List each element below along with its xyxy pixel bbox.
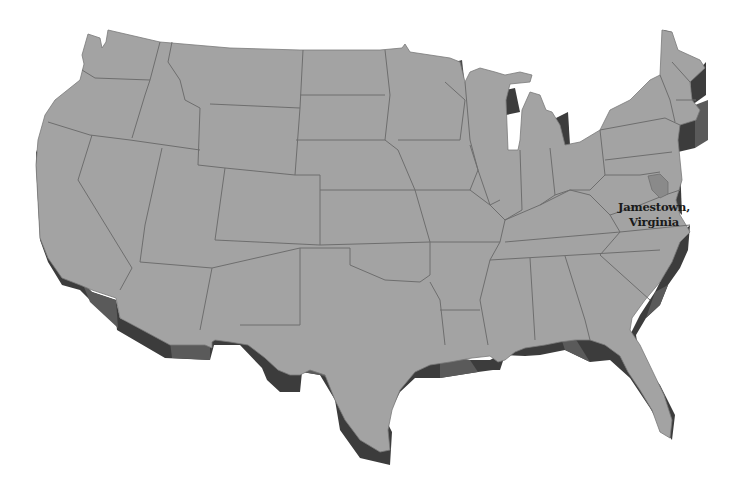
us-map — [0, 0, 744, 501]
jamestown-virginia-label: Jamestown, Virginia — [612, 200, 696, 230]
map-land — [36, 30, 705, 452]
label-line-1: Jamestown, — [612, 200, 696, 215]
label-line-2: Virginia — [612, 215, 696, 230]
